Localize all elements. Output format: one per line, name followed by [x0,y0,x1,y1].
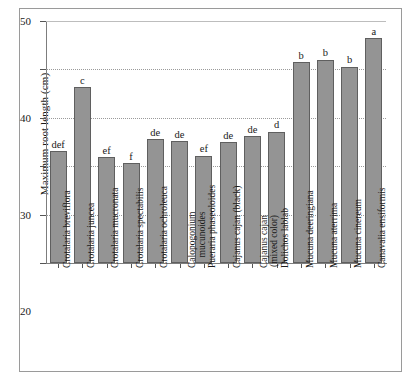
x-axis-category-label: Mucuna cinereum [353,199,363,268]
x-axis-category-label: Crotalaria ochroleuca [159,186,169,268]
bar-significance-letter: ef [103,146,111,157]
y-axis-tick-label: 50 [20,15,31,27]
y-axis-tick-label: 30 [20,209,31,221]
bar-significance-letter: de [223,131,233,142]
gridline [46,166,386,167]
gridline [46,21,386,22]
bar[interactable]: de [171,141,188,263]
gridline [46,118,386,119]
x-axis-category-label: Pueraria phaseoloides [207,185,217,268]
x-axis-category-label: Canavalia ensiformis [377,188,387,268]
bar-significance-letter: b [347,55,352,66]
bar-significance-letter: a [372,27,377,38]
y-axis-tick-label: 40 [20,112,31,124]
bar-significance-letter: d [274,120,279,131]
x-axis-category-label: Calopogoniummucunoides [187,212,207,268]
figure: Maximum root length (cm) 01020304050defc… [0,0,409,380]
bar-significance-letter: de [175,130,185,141]
bar-significance-letter: def [51,140,64,151]
x-axis-category-label: Crotalaria juncea [86,203,96,268]
x-axis-category-label: Dolichos lablab [280,208,290,268]
bar-significance-letter: f [129,152,133,163]
bar-significance-letter: c [80,76,85,87]
x-axis-category-label: Cajanus cajan(mixed color) [259,215,279,268]
x-axis-category-label: Mucuna aterrima [329,203,339,268]
x-axis-category-label: Mucuna deeringiana [305,190,315,268]
bar-significance-letter: de [150,128,160,139]
x-axis-category-label: Crotalaria spectabilis [135,188,145,268]
bar-significance-letter: de [247,125,257,136]
y-axis-tick: 20 [40,166,46,167]
y-axis-tick-label: 20 [20,305,31,317]
x-axis-labels: Crotalaria brevifloraCrotalaria junceaCr… [46,268,387,378]
y-axis-tick: 40 [40,69,46,70]
x-axis-category-label: Crotalaria mucronata [110,188,120,268]
x-axis-category-label: Cajanus cajan (black) [232,186,242,268]
bar-significance-letter: b [298,51,303,62]
y-axis-tick: 10 [40,215,46,216]
bar-significance-letter: ef [200,144,208,155]
gridline [46,69,386,70]
x-axis-category-label: Crotalaria breviflora [62,190,72,268]
bar-significance-letter: b [323,48,328,59]
y-axis-tick: 0 [40,263,46,264]
y-axis-tick: 50 [40,21,46,22]
y-axis-tick: 30 [40,118,46,119]
